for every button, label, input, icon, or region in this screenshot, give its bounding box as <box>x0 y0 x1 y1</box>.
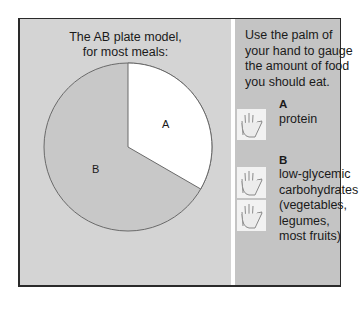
legend-label-b-line: low-glycemic <box>279 167 358 183</box>
palm-hand-icon <box>237 167 266 198</box>
legend-label-b: low-glycemic carbohydrates (vegetables, … <box>279 167 358 245</box>
legend-label-b-line: legumes, <box>279 214 358 230</box>
legend-letter-b: B <box>279 154 287 166</box>
plate-model-panel: The AB plate model, for most meals: A B <box>20 19 231 285</box>
chart-title-line-1: The AB plate model, <box>20 30 231 45</box>
plate-pie-chart: A B <box>42 61 214 233</box>
legend-label-b-line: most fruits) <box>279 229 358 245</box>
chart-title: The AB plate model, for most meals: <box>20 30 231 60</box>
slice-b-label: B <box>92 163 99 175</box>
legend-letter-a: A <box>279 98 287 110</box>
hand-guide-intro: Use the palm of your hand to gauge the a… <box>245 28 355 90</box>
chart-title-line-2: for most meals: <box>20 45 231 60</box>
legend-label-b-line: carbohydrates <box>279 183 358 199</box>
figure-frame: The AB plate model, for most meals: A B … <box>18 18 341 287</box>
palm-hand-icon <box>237 200 266 231</box>
legend-label-b-line: (vegetables, <box>279 198 358 214</box>
legend-label-a: protein <box>279 112 317 128</box>
slice-a-label: A <box>162 118 170 130</box>
hand-guide-panel: Use the palm of your hand to gauge the a… <box>235 19 340 285</box>
palm-hand-icon <box>237 109 266 140</box>
